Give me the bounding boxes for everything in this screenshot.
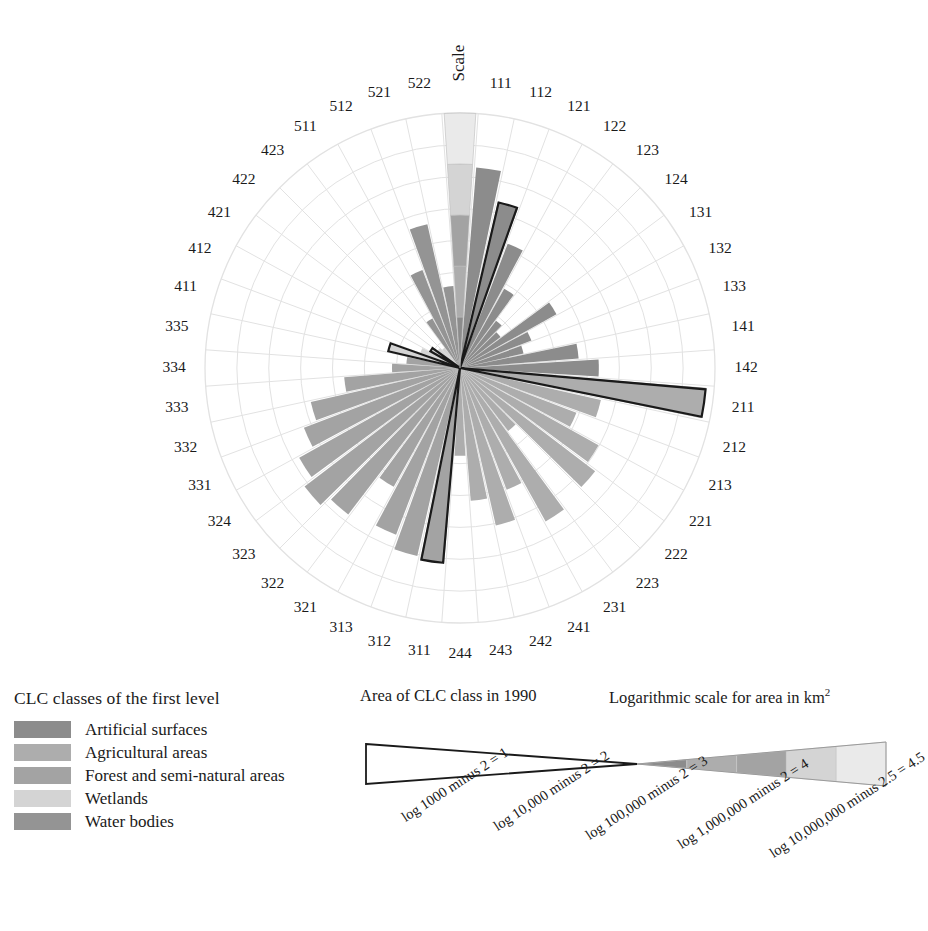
axis-label-411: 411 [174, 277, 197, 294]
log-scale-legend: Area of CLC class in 1990 Logarithmic sc… [356, 686, 897, 931]
scale-legend-heading-right: Logarithmic scale for area in km2 [609, 686, 830, 708]
axis-label-423: 423 [261, 141, 285, 158]
axis-label-121: 121 [567, 97, 590, 114]
scale-legend-superscript: 2 [825, 686, 831, 698]
axis-label-223: 223 [636, 574, 660, 591]
clc-legend-swatch-5 [14, 813, 71, 830]
clc-legend-item: Wetlands [14, 787, 354, 810]
clc-legend-label: Water bodies [85, 812, 174, 832]
axis-label-122: 122 [603, 117, 626, 134]
axis-label-334: 334 [162, 358, 186, 375]
clc-legend-label: Artificial surfaces [85, 720, 207, 740]
axis-label-312: 312 [368, 632, 391, 649]
axis-label-522: 522 [408, 74, 431, 91]
axis-label-333: 333 [165, 398, 189, 415]
scale-legend-heading-left: Area of CLC class in 1990 [360, 686, 536, 706]
axis-label-331: 331 [188, 476, 211, 493]
axis-label-335: 335 [165, 317, 189, 334]
axis-label-213: 213 [709, 476, 733, 493]
axis-label-141: 141 [731, 317, 754, 334]
axis-label-111: 111 [490, 74, 512, 91]
clc-legend-swatch-4 [14, 790, 71, 807]
axis-label-241: 241 [567, 618, 590, 635]
axis-label-133: 133 [723, 277, 747, 294]
axis-label-112: 112 [529, 83, 552, 100]
axis-label-512: 512 [330, 97, 353, 114]
rose-chart-container: 1111121211221231241311321331411422112122… [0, 0, 897, 670]
axis-label-244: 244 [448, 644, 472, 661]
axis-label-521: 521 [368, 83, 391, 100]
axis-label-221: 221 [689, 512, 712, 529]
clc-legend-label: Agricultural areas [85, 743, 207, 763]
axis-label-422: 422 [232, 170, 255, 187]
clc-legend-item: Agricultural areas [14, 741, 354, 764]
scale-wedge-band-5 [444, 113, 476, 164]
axis-label-311: 311 [408, 641, 431, 658]
axis-label-231: 231 [603, 598, 626, 615]
axis-label-313: 313 [330, 618, 354, 635]
axis-label-124: 124 [665, 170, 689, 187]
axis-label-421: 421 [208, 203, 231, 220]
scale-wedge-band-4 [447, 164, 472, 215]
scale-wedge-band-3 [451, 215, 470, 266]
clc-legend-label: Forest and semi-natural areas [85, 766, 285, 786]
clc-class-legend: CLC classes of the first level Artificia… [14, 688, 354, 833]
axis-label-243: 243 [489, 641, 513, 658]
axis-label-123: 123 [636, 141, 660, 158]
axis-label-142: 142 [734, 358, 757, 375]
axis-label-322: 322 [261, 574, 284, 591]
axis-label-211: 211 [732, 398, 755, 415]
axis-label-511: 511 [294, 117, 317, 134]
figure-legend: CLC classes of the first level Artificia… [0, 672, 897, 931]
scale-legend-heading-right-text: Logarithmic scale for area in km [609, 688, 825, 707]
axis-label-132: 132 [709, 239, 732, 256]
axis-label-131: 131 [689, 203, 712, 220]
axis-label-242: 242 [529, 632, 552, 649]
clc-legend-swatch-3 [14, 767, 71, 784]
clc-legend-item: Water bodies [14, 810, 354, 833]
axis-label-332: 332 [174, 438, 197, 455]
axis-label-324: 324 [208, 512, 232, 529]
polar-rose-chart: 1111121211221231241311321331411422112122… [0, 0, 897, 670]
axis-label-412: 412 [188, 239, 211, 256]
axis-label-212: 212 [723, 438, 746, 455]
scale-caption: Scale [449, 45, 468, 82]
clc-legend-list: Artificial surfacesAgricultural areasFor… [14, 718, 354, 833]
axis-label-323: 323 [232, 545, 256, 562]
axis-label-222: 222 [665, 545, 688, 562]
clc-legend-label: Wetlands [85, 789, 148, 809]
clc-legend-swatch-1 [14, 721, 71, 738]
clc-legend-item: Artificial surfaces [14, 718, 354, 741]
clc-legend-title: CLC classes of the first level [14, 688, 354, 709]
axis-label-321: 321 [294, 598, 317, 615]
clc-legend-item: Forest and semi-natural areas [14, 764, 354, 787]
clc-legend-swatch-2 [14, 744, 71, 761]
